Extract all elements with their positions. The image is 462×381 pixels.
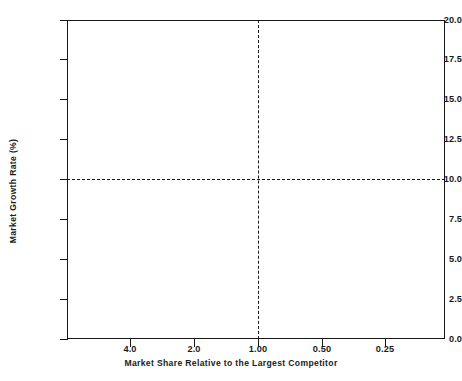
y-axis-label-text: Market Growth Rate (%) bbox=[8, 138, 18, 243]
growth-rate-divider-line bbox=[67, 179, 445, 180]
y-tick-mark bbox=[60, 299, 68, 300]
y-tick-label-8: 20.0 bbox=[406, 16, 462, 25]
x-tick-label-1: 2.0 bbox=[164, 345, 224, 354]
y-tick-mark bbox=[60, 59, 68, 60]
y-tick-label-7: 17.5 bbox=[406, 55, 462, 64]
y-tick-mark bbox=[60, 99, 68, 100]
x-tick-label-0: 4.0 bbox=[100, 345, 160, 354]
y-tick-label-3: 7.5 bbox=[406, 215, 462, 224]
x-axis-label: Market Share Relative to the Largest Com… bbox=[0, 358, 462, 368]
y-tick-label-2: 5.0 bbox=[406, 255, 462, 264]
y-tick-mark bbox=[60, 259, 68, 260]
x-tick-label-2: 1.00 bbox=[228, 345, 288, 354]
y-tick-label-5: 12.5 bbox=[406, 135, 462, 144]
relative-share-divider-line bbox=[258, 20, 259, 339]
y-tick-mark bbox=[60, 139, 68, 140]
y-tick-label-0: 0.0 bbox=[406, 335, 462, 344]
y-tick-mark bbox=[60, 339, 68, 340]
y-axis-label: Market Growth Rate (%) bbox=[6, 0, 20, 381]
y-tick-mark bbox=[60, 219, 68, 220]
growth-share-matrix-chart: 0.0 2.5 5.0 7.5 10.0 12.5 15.0 17.5 20.0… bbox=[0, 0, 462, 381]
y-tick-mark bbox=[60, 20, 68, 21]
y-tick-mark bbox=[60, 179, 68, 180]
y-tick-label-6: 15.0 bbox=[406, 95, 462, 104]
x-tick-label-3: 0.50 bbox=[292, 345, 352, 354]
y-tick-label-4: 10.0 bbox=[406, 175, 462, 184]
y-tick-label-1: 2.5 bbox=[406, 295, 462, 304]
x-tick-label-4: 0.25 bbox=[355, 345, 415, 354]
